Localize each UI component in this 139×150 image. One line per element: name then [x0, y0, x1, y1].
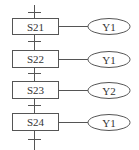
- step-s24: S24 Y1: [13, 114, 131, 131]
- sfc-diagram: S21 Y1 S22 Y1 S23 Y2 S24 Y1: [0, 0, 139, 150]
- step-label: S24: [27, 116, 45, 128]
- step-s21: S21 Y1: [13, 19, 131, 35]
- step-label: S22: [27, 53, 44, 65]
- step-label: S23: [27, 84, 45, 96]
- output-label: Y1: [102, 21, 115, 33]
- step-label: S21: [27, 21, 44, 33]
- output-label: Y2: [102, 85, 115, 97]
- step-s23: S23 Y2: [13, 82, 131, 99]
- output-label: Y1: [102, 54, 115, 66]
- step-s22: S22 Y1: [13, 51, 131, 68]
- output-label: Y1: [102, 117, 115, 129]
